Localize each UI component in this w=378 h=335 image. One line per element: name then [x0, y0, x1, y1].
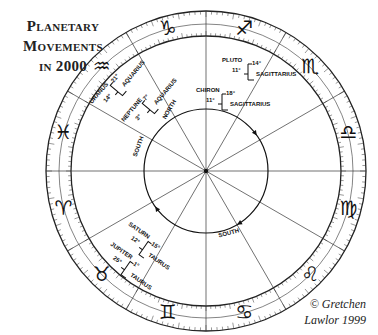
tick-outer — [65, 244, 68, 246]
tick-inner — [296, 68, 298, 70]
tick-outer — [62, 101, 65, 103]
tick-outer — [298, 42, 300, 45]
degree-from: 11° — [232, 67, 241, 73]
tick-outer — [351, 111, 354, 112]
tick-inner — [146, 292, 147, 295]
tick-outer — [103, 289, 107, 294]
tick-inner — [229, 33, 230, 38]
tick-outer — [70, 254, 73, 256]
tick-inner — [312, 254, 314, 256]
degree-to: 15° — [150, 241, 161, 251]
tick-inner — [333, 217, 338, 219]
tick-outer — [259, 21, 261, 27]
tick-outer — [112, 42, 114, 45]
tick-outer — [329, 267, 332, 269]
tick-inner — [281, 283, 283, 285]
tick-inner — [133, 54, 135, 57]
sign-label: TAURUS — [129, 272, 153, 291]
sign-glyph-capricorn: ♑ — [159, 16, 177, 40]
tick-inner — [121, 277, 123, 279]
tick-outer — [344, 244, 347, 246]
tick-inner — [114, 68, 116, 70]
tick-outer — [349, 235, 352, 236]
sign-glyph-gemini: ♊ — [159, 300, 177, 324]
tick-inner — [285, 59, 287, 61]
tick-inner — [278, 54, 280, 57]
tick-outer — [107, 45, 109, 48]
tick-outer — [56, 224, 62, 226]
tick-inner — [309, 81, 313, 84]
tick-inner — [141, 290, 142, 293]
tick-outer — [336, 82, 339, 84]
tick-outer — [358, 143, 364, 144]
tick-outer — [58, 111, 61, 112]
tick-outer — [83, 68, 88, 72]
tick-inner — [125, 59, 127, 61]
tick-outer — [265, 23, 266, 26]
tick-outer — [87, 276, 90, 278]
tick-outer — [107, 294, 109, 297]
tick-inner — [68, 147, 73, 148]
degree-from: 3° — [134, 113, 143, 122]
tick-outer — [351, 230, 354, 231]
tick-inner — [89, 243, 92, 245]
tick-outer — [265, 316, 266, 319]
sign-glyph-sagittarius: ♐ — [235, 16, 253, 40]
tick-inner — [269, 290, 270, 293]
tick-outer — [324, 68, 329, 72]
degree-to: 1° — [132, 261, 141, 270]
tick-inner — [293, 274, 296, 278]
tick-outer — [347, 240, 350, 242]
tick-outer — [294, 38, 296, 41]
tick-outer — [77, 263, 80, 265]
tick-outer — [70, 86, 73, 88]
tick-inner — [265, 47, 266, 50]
sign-divider — [206, 91, 345, 171]
tick-outer — [358, 198, 364, 199]
tick-outer — [151, 316, 153, 322]
center-point — [204, 169, 208, 173]
tick-outer — [121, 304, 123, 307]
tick-inner — [281, 57, 283, 59]
tick-inner — [182, 33, 183, 38]
credit-line-1: © Gretchen — [304, 296, 366, 312]
tick-outer — [275, 27, 277, 30]
planet-annotations: PLUTO11°14°SAGITTARIUSCHIRON11°18°SAGITT… — [88, 50, 296, 293]
tick-outer — [65, 96, 68, 98]
tick-inner — [269, 49, 270, 52]
tick-outer — [117, 301, 119, 304]
degree-from: 11° — [206, 97, 215, 103]
tick-outer — [349, 106, 352, 107]
tick-outer — [339, 86, 342, 88]
tick-inner — [315, 250, 317, 252]
tick-inner — [320, 98, 323, 100]
tick-inner — [320, 243, 323, 245]
tick-outer — [336, 259, 339, 261]
tick-outer — [151, 21, 153, 27]
tick-outer — [60, 106, 63, 107]
tick-inner — [146, 47, 147, 50]
tick-outer — [80, 267, 83, 269]
tick-outer — [329, 72, 332, 74]
degree-from: 12° — [130, 235, 141, 245]
tick-outer — [351, 224, 357, 226]
tick-inner — [318, 246, 320, 248]
sign-glyph-aquarius: ♒ — [93, 54, 111, 78]
tick-inner — [333, 123, 338, 125]
tick-inner — [141, 49, 142, 52]
tick-outer — [146, 23, 147, 26]
tick-outer — [294, 301, 296, 304]
tick-inner — [327, 230, 330, 231]
tick-outer — [62, 240, 65, 242]
zodiac-wheel: ♑♐♏♎♍♌♋♊♉♈♓♒ SOUTHSOUTHNORTH PLUTO11°14°… — [0, 0, 378, 335]
tick-inner — [133, 285, 135, 288]
tick-outer — [87, 64, 90, 66]
tick-inner — [289, 62, 291, 64]
tick-inner — [84, 106, 87, 107]
tick-inner — [84, 234, 87, 235]
tick-outer — [233, 13, 234, 19]
tick-outer — [141, 25, 142, 28]
tick-outer — [146, 316, 147, 319]
tick-inner — [318, 94, 320, 96]
tick-outer — [77, 77, 80, 79]
